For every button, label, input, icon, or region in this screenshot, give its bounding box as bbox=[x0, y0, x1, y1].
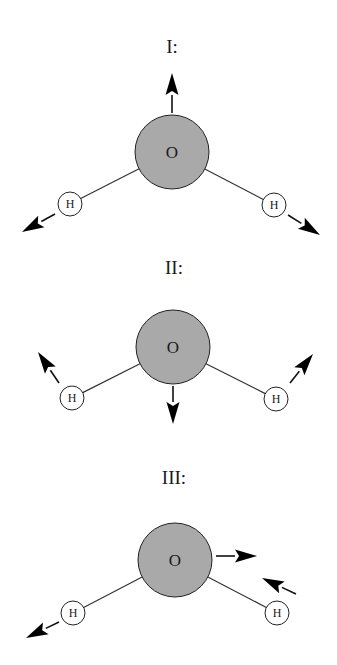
hydrogen-left-displacement-arrow-icon bbox=[22, 214, 55, 232]
mode-label: I: bbox=[166, 36, 178, 57]
hydrogen-symbol: H bbox=[68, 391, 77, 405]
hydrogen-atom-left: H bbox=[58, 192, 82, 216]
oxygen-symbol: O bbox=[167, 338, 179, 357]
hydrogen-symbol: H bbox=[270, 198, 279, 212]
bond-right bbox=[205, 169, 264, 199]
mode-label: II: bbox=[165, 257, 183, 278]
mode-2: II:OHH bbox=[38, 257, 313, 424]
hydrogen-symbol: H bbox=[272, 392, 281, 406]
hydrogen-atom-right: H bbox=[265, 601, 289, 625]
oxygen-displacement-arrow-icon bbox=[216, 550, 257, 563]
hydrogen-atom-right: H bbox=[264, 387, 288, 411]
hydrogen-right-displacement-arrow-icon bbox=[290, 354, 313, 383]
bond-left bbox=[84, 577, 143, 607]
mode-label: III: bbox=[162, 467, 186, 488]
oxygen-atom: O bbox=[138, 523, 212, 597]
oxygen-atom: O bbox=[135, 115, 209, 189]
oxygen-symbol: O bbox=[169, 551, 181, 570]
mode-3: III:OHH bbox=[26, 467, 296, 638]
oxygen-atom: O bbox=[136, 310, 210, 384]
hydrogen-atom-left: H bbox=[61, 601, 85, 625]
hydrogen-symbol: H bbox=[66, 197, 75, 211]
hydrogen-symbol: H bbox=[69, 606, 78, 620]
hydrogen-atom-right: H bbox=[262, 193, 286, 217]
bond-right bbox=[208, 577, 267, 607]
water-vibrational-modes-diagram: I:OHHII:OHHIII:OHH bbox=[0, 0, 337, 665]
hydrogen-right-displacement-arrow-icon bbox=[262, 578, 296, 594]
bond-left bbox=[81, 169, 139, 199]
bond-left bbox=[83, 364, 140, 393]
hydrogen-left-displacement-arrow-icon bbox=[38, 352, 59, 383]
oxygen-displacement-arrow-icon bbox=[167, 386, 180, 424]
mode-1: I:OHH bbox=[22, 36, 320, 235]
hydrogen-symbol: H bbox=[273, 606, 282, 620]
hydrogen-atom-left: H bbox=[60, 386, 84, 410]
bond-right bbox=[206, 364, 265, 394]
oxygen-displacement-arrow-icon bbox=[166, 73, 179, 113]
hydrogen-left-displacement-arrow-icon bbox=[26, 622, 59, 638]
hydrogen-right-displacement-arrow-icon bbox=[288, 215, 320, 235]
oxygen-symbol: O bbox=[166, 143, 178, 162]
